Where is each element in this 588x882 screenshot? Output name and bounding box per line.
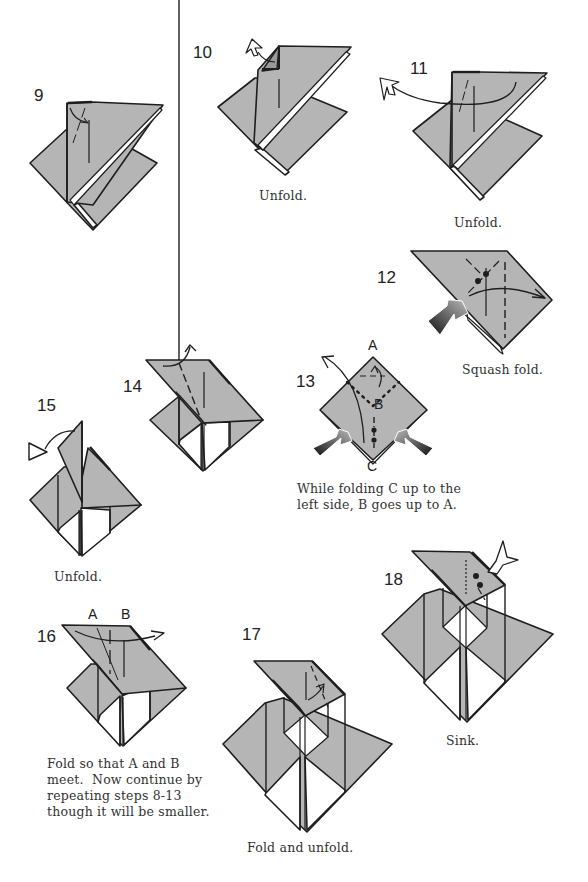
caption-step-13: While folding C up to the left side, B g… [297,481,461,513]
point-label-b-step-16: B [121,606,130,622]
point-label-a-step-13: A [368,337,377,353]
step-number-14: 14 [123,377,142,397]
step-10-diagram [218,39,351,175]
step-11-diagram [380,72,547,200]
step-number-10: 10 [193,43,212,63]
caption-step-18: Sink. [446,733,479,749]
step-16-diagram [62,625,186,746]
origami-instructions-page: 9 10 11 12 13 14 15 16 17 18 A B C A B U… [0,0,588,882]
step-12-diagram [411,251,552,354]
point-label-c-step-13: C [367,458,377,474]
diagrams-canvas [0,0,588,882]
step-number-11: 11 [410,59,428,79]
step-18-diagram [382,541,553,722]
caption-step-17: Fold and unfold. [247,840,353,856]
step-number-9: 9 [34,86,43,106]
step-number-16: 16 [37,627,56,647]
caption-step-10: Unfold. [259,188,307,204]
step-number-12: 12 [377,268,396,288]
step-13-diagram [313,356,433,464]
step-15-diagram [29,421,141,556]
caption-step-11: Unfold. [454,215,502,231]
step-9-diagram [30,102,163,230]
point-label-b-step-13: B [374,396,383,412]
caption-step-15: Unfold. [54,569,102,585]
step-number-15: 15 [37,396,56,416]
point-label-a-step-16: A [88,606,97,622]
step-number-18: 18 [384,570,403,590]
caption-step-12: Squash fold. [462,362,543,378]
step-14-diagram [146,0,263,471]
step-number-13: 13 [296,372,315,392]
step-17-diagram [223,661,392,832]
step-number-17: 17 [242,625,261,645]
caption-step-16: Fold so that A and B meet. Now continue … [47,756,210,820]
